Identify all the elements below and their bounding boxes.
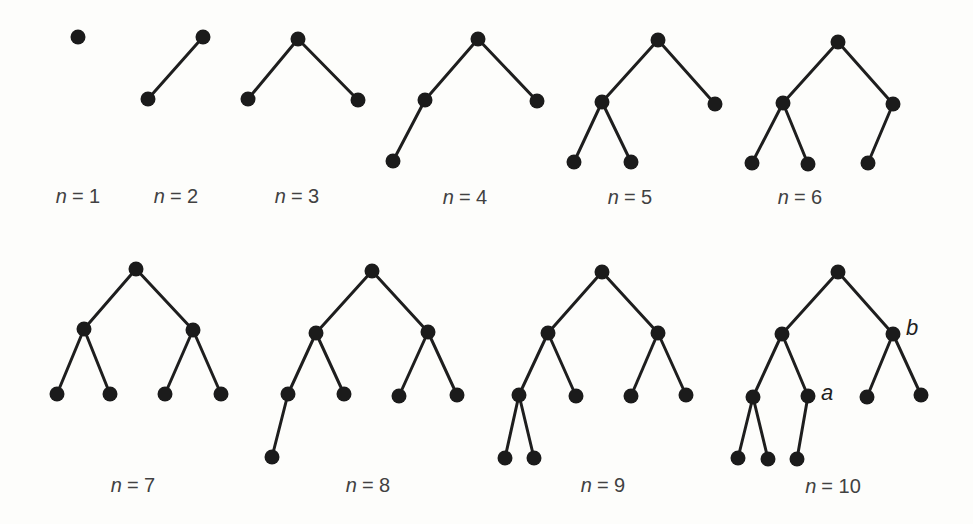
tree-node: [196, 30, 211, 45]
trees-diagram-svg: [0, 0, 973, 524]
tree-node: [861, 156, 876, 171]
tree-edge: [893, 334, 921, 395]
tree-node: [309, 326, 324, 341]
tree-node: [512, 388, 527, 403]
tree-edge: [658, 40, 715, 104]
tree-node: [386, 154, 401, 169]
tree-node: [595, 95, 610, 110]
tree-edge: [316, 271, 372, 333]
tree-edge: [288, 333, 316, 394]
tree-edge: [84, 269, 136, 329]
tree-node: [541, 326, 556, 341]
tree-edge: [631, 333, 658, 396]
tree-node: [50, 387, 65, 402]
tree-edge: [399, 332, 428, 396]
tree-node: [527, 451, 542, 466]
tree-edge: [783, 42, 838, 103]
tree-edge: [519, 395, 534, 458]
tree-edge: [298, 39, 358, 100]
tree-node: [141, 92, 156, 107]
tree-node: [801, 389, 816, 404]
tree-edge: [548, 333, 576, 396]
tree-node: [392, 389, 407, 404]
tree-edge: [478, 39, 537, 101]
tree-edge: [425, 39, 478, 100]
tree-node: [914, 388, 929, 403]
tree-node: [291, 32, 306, 47]
tree-node: [651, 326, 666, 341]
tree-node: [745, 156, 760, 171]
tree-node: [708, 97, 723, 112]
tree-n-8: [265, 264, 465, 465]
tree-node: [337, 387, 352, 402]
tree-n-2: [141, 30, 211, 107]
binary-trees-figure: n= 1n= 2n= 3n= 4n= 5n= 6n= 7n= 8n= 9n= 1…: [0, 0, 973, 524]
tree-edge: [193, 330, 221, 394]
tree-edge: [519, 333, 548, 395]
tree-edge: [84, 329, 110, 394]
tree-edge: [738, 397, 753, 458]
tree-node: [103, 387, 118, 402]
tree-edge: [658, 333, 686, 395]
tree-node: [886, 327, 901, 342]
tree-node: [886, 97, 901, 112]
tree-node: [801, 157, 816, 172]
tree-node: [761, 452, 776, 467]
tree-edge: [548, 272, 602, 333]
tree-edge: [782, 272, 838, 334]
tree-node: [746, 390, 761, 405]
tree-node: [776, 96, 791, 111]
tree-node: [418, 93, 433, 108]
tree-n-3: [241, 32, 366, 108]
tree-node: [775, 327, 790, 342]
tree-edge: [783, 103, 808, 164]
tree-edge: [753, 397, 768, 459]
tree-edge: [316, 333, 344, 394]
tree-edge: [393, 100, 425, 161]
tree-node: [679, 388, 694, 403]
tree-edge: [867, 334, 893, 397]
tree-n-9: [498, 265, 694, 466]
tree-node: [186, 323, 201, 338]
tree-node: [450, 388, 465, 403]
tree-node: [214, 387, 229, 402]
tree-node: [569, 389, 584, 404]
tree-node: [831, 265, 846, 280]
tree-node: [158, 387, 173, 402]
tree-edge: [753, 334, 782, 397]
tree-node: [651, 33, 666, 48]
tree-edge: [248, 39, 298, 99]
tree-node: [860, 390, 875, 405]
tree-edge: [782, 334, 808, 396]
tree-node: [71, 30, 86, 45]
tree-node: [365, 264, 380, 279]
tree-edge: [428, 332, 457, 395]
tree-edge: [136, 269, 193, 330]
tree-edge: [148, 37, 203, 99]
tree-n-10: [731, 265, 929, 467]
tree-edge: [272, 394, 288, 457]
tree-node: [498, 451, 513, 466]
tree-node: [731, 451, 746, 466]
tree-node: [351, 93, 366, 108]
tree-node: [471, 32, 486, 47]
tree-edge: [372, 271, 428, 332]
tree-n-1: [71, 30, 86, 45]
tree-node: [831, 35, 846, 50]
tree-edge: [602, 40, 658, 102]
tree-node: [530, 94, 545, 109]
tree-node: [567, 155, 582, 170]
tree-edge: [797, 396, 808, 459]
tree-edge: [602, 272, 658, 333]
tree-edge: [602, 102, 631, 162]
tree-node: [624, 389, 639, 404]
tree-node: [281, 387, 296, 402]
tree-edge: [57, 329, 84, 394]
tree-node: [421, 325, 436, 340]
tree-edge: [165, 330, 193, 394]
tree-node: [595, 265, 610, 280]
tree-node: [241, 92, 256, 107]
tree-node: [790, 452, 805, 467]
tree-node: [77, 322, 92, 337]
tree-edge: [574, 102, 602, 162]
